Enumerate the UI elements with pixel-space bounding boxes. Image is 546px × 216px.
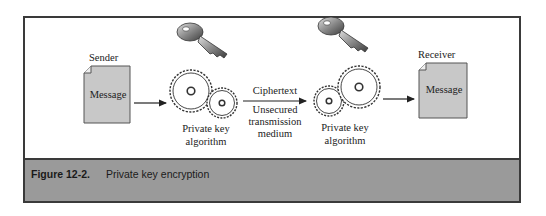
channel-label-line3: medium — [240, 128, 310, 140]
receiver-label: Receiver — [418, 49, 455, 61]
encrypt-label-line1: Private key — [178, 123, 234, 135]
gears-icon-encrypt — [170, 70, 237, 118]
decrypt-label-line2: algorithm — [317, 135, 373, 147]
key-icon-decrypt — [318, 17, 368, 52]
ciphertext-label: Ciphertext — [244, 85, 306, 97]
receiver-message-label: Message — [421, 84, 467, 96]
key-icon-encrypt — [177, 23, 227, 58]
channel-label-line2: transmission — [240, 116, 310, 128]
encrypt-label-line2: algorithm — [178, 136, 234, 148]
gears-icon-decrypt — [314, 66, 380, 116]
channel-label-line1: Unsecured — [240, 104, 310, 116]
sender-label: Sender — [89, 52, 118, 64]
decrypt-label-line1: Private key — [317, 122, 373, 134]
sender-message-label: Message — [86, 89, 130, 101]
